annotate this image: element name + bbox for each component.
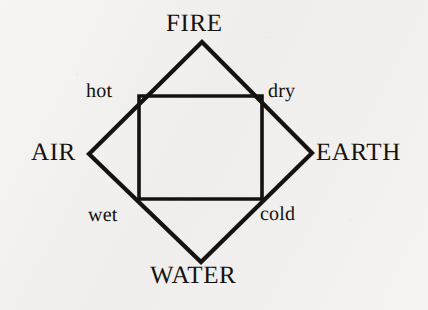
- element-label-earth: EARTH: [316, 140, 401, 165]
- inner-square-shape: [139, 96, 262, 199]
- quality-label-cold: cold: [260, 204, 295, 224]
- outer-diamond-group: [89, 42, 312, 262]
- inner-square-group: [139, 96, 262, 199]
- element-label-fire: FIRE: [166, 11, 223, 36]
- outer-diamond-shape: [89, 42, 312, 262]
- quality-label-dry: dry: [268, 81, 295, 101]
- element-label-air: AIR: [31, 140, 76, 165]
- classical-elements-diagram: FIRE EARTH WATER AIR hot dry cold wet: [0, 0, 428, 310]
- quality-label-hot: hot: [86, 81, 112, 101]
- element-label-water: WATER: [150, 263, 236, 288]
- quality-label-wet: wet: [88, 205, 117, 225]
